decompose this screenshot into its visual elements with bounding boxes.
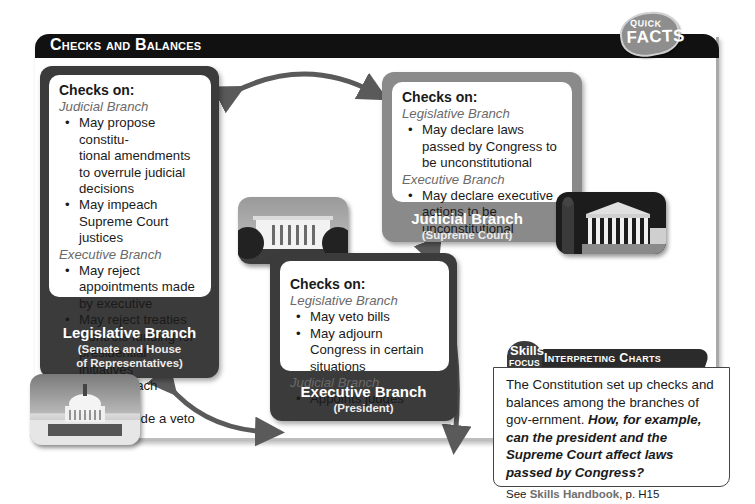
target-executive: Executive Branch <box>59 247 203 263</box>
branch-name: Legislative Branch <box>40 324 219 342</box>
target-judicial: Judicial Branch <box>59 99 203 115</box>
branch-subtitle: of Representatives) <box>40 356 219 370</box>
skills-reference: See Skills Handbook, p. H15 <box>506 486 721 504</box>
capitol-icon <box>30 374 140 445</box>
branch-subtitle: (Senate and House <box>40 342 219 356</box>
branch-subtitle: (President) <box>270 401 457 415</box>
judicial-branch-box: Checks on: Legislative Branch May declar… <box>382 72 582 242</box>
supreme-court-photo <box>556 192 666 254</box>
skills-label: Skills <box>510 343 544 358</box>
check-item: May reject appointments made by executiv… <box>71 263 203 312</box>
check-item: May propose constitu-tional amendments t… <box>71 115 203 197</box>
check-item: May adjourn Congress in certain situatio… <box>302 326 441 375</box>
judicial-label: Judicial Branch (Supreme Court) <box>352 210 582 242</box>
judicial-checks-panel: Checks on: Legislative Branch May declar… <box>392 82 572 202</box>
executive-checks-panel: Checks on: Legislative Branch May veto b… <box>280 261 449 371</box>
executive-branch-box: Checks on: Legislative Branch May veto b… <box>270 253 457 421</box>
checks-heading: Checks on: <box>402 89 564 106</box>
see-prefix: See <box>506 488 526 500</box>
check-item: May veto bills <box>302 309 441 325</box>
supreme-court-icon <box>556 192 666 254</box>
legislative-checks-panel: Checks on: Judicial Branch May propose c… <box>49 75 211 297</box>
legislative-branch-box: Checks on: Judicial Branch May propose c… <box>40 66 219 378</box>
branch-subtitle: (Supreme Court) <box>352 228 582 242</box>
check-item: May declare laws passed by Congress to b… <box>414 122 564 171</box>
capitol-building-photo <box>30 374 140 445</box>
checks-heading: Checks on: <box>59 82 203 99</box>
target-executive: Executive Branch <box>402 172 564 188</box>
legislative-label: Legislative Branch (Senate and House of … <box>40 324 219 370</box>
arrow-legislative-judicial <box>232 74 375 93</box>
checks-heading: Checks on: <box>290 276 441 293</box>
branch-name: Executive Branch <box>270 383 457 401</box>
see-suffix: , p. H15 <box>619 488 659 500</box>
branch-name: Judicial Branch <box>352 210 582 228</box>
skills-focus-box: The Constitution set up checks and balan… <box>493 367 730 487</box>
target-legislative: Legislative Branch <box>290 293 441 309</box>
executive-label: Executive Branch (President) <box>270 383 457 415</box>
skills-handbook-link[interactable]: Skills Handbook <box>530 488 619 500</box>
skills-focus-title: Interpreting Charts <box>544 351 661 365</box>
check-item: May impeach Supreme Court justices <box>71 197 203 246</box>
target-legislative: Legislative Branch <box>402 106 564 122</box>
